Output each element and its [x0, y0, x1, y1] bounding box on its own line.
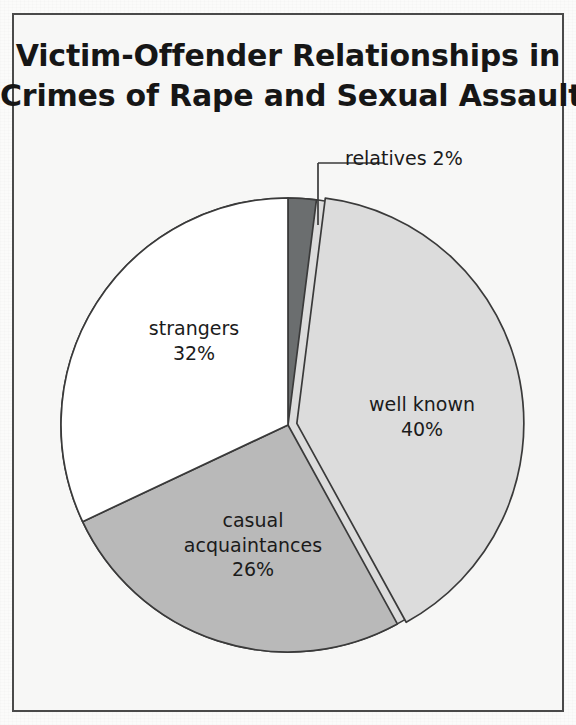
chart-page: Victim-Offender Relationships in Crimes … [0, 0, 576, 725]
casual-label-name-1: casual [158, 508, 348, 533]
relatives-label-text: relatives 2% [345, 146, 530, 171]
well-known-label-name: well known [352, 392, 492, 417]
casual-label-value: 26% [158, 557, 348, 582]
strangers-label-value: 32% [124, 341, 264, 366]
strangers-label-name: strangers [124, 316, 264, 341]
slice-label-strangers: strangers 32% [124, 316, 264, 365]
slice-label-relatives: relatives 2% [345, 146, 530, 171]
slice-label-casual-acquaintances: casual acquaintances 26% [158, 508, 348, 582]
slice-label-well-known: well known 40% [352, 392, 492, 441]
casual-label-name-2: acquaintances [158, 533, 348, 558]
well-known-label-value: 40% [352, 417, 492, 442]
pie-chart [0, 0, 576, 725]
